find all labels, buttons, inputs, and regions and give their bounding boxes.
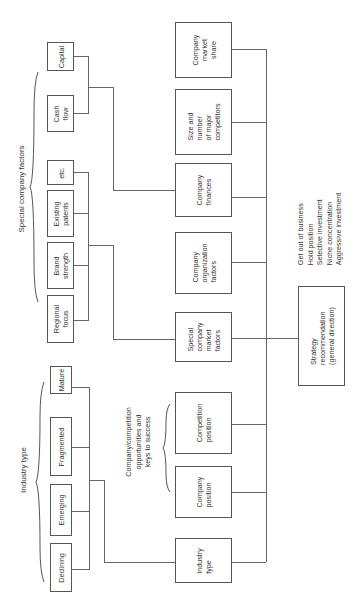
box-existing-patents: Existing patents bbox=[47, 190, 74, 237]
box-brand-strength: Brand strength bbox=[47, 242, 74, 289]
connector bbox=[74, 320, 88, 321]
connector bbox=[88, 245, 113, 246]
box-company-position: Company position bbox=[175, 466, 232, 518]
box-industry-type: Industry type bbox=[175, 538, 232, 583]
connector bbox=[113, 87, 114, 191]
company-competition-label: Company/competition opportunities and ke… bbox=[122, 392, 154, 492]
box-size-number-competitors: Size and number of major competitors bbox=[175, 89, 232, 155]
strategy-options-list: Get out of business Hold position Select… bbox=[295, 183, 345, 274]
connector bbox=[89, 387, 90, 570]
connector bbox=[89, 480, 104, 481]
special-factors-brace bbox=[32, 72, 40, 302]
connector bbox=[232, 262, 266, 263]
box-etc: etc. bbox=[47, 160, 74, 185]
box-company-organization: Company organization factors bbox=[175, 232, 232, 294]
box-mature: Mature bbox=[50, 366, 72, 394]
connector bbox=[74, 113, 88, 114]
connector bbox=[72, 511, 89, 512]
connector-to-strategy bbox=[266, 338, 298, 339]
connector bbox=[232, 122, 266, 123]
connector bbox=[113, 339, 175, 340]
connector bbox=[88, 172, 89, 321]
connector bbox=[232, 49, 266, 50]
connector bbox=[232, 338, 266, 339]
connector bbox=[88, 56, 89, 114]
connector bbox=[74, 56, 88, 57]
company-competition-brace bbox=[164, 404, 172, 492]
connector bbox=[74, 265, 88, 266]
connector bbox=[232, 492, 266, 493]
industry-type-label: Industry type bbox=[14, 430, 34, 510]
box-special-company-market: Special company market factors bbox=[175, 312, 232, 362]
box-capital: Capital bbox=[47, 42, 74, 71]
connector bbox=[74, 172, 88, 173]
connector bbox=[72, 447, 89, 448]
connector bbox=[232, 424, 266, 425]
special-company-factors-label: Special company factors bbox=[12, 130, 32, 248]
box-fragmented: Fragmented bbox=[50, 417, 72, 476]
connector bbox=[72, 569, 89, 570]
connector bbox=[74, 213, 88, 214]
box-competition-position: Competition position bbox=[175, 392, 232, 454]
box-company-finances: Company finances bbox=[175, 163, 232, 217]
box-declining: Declining bbox=[50, 543, 72, 592]
connector bbox=[88, 87, 113, 88]
box-cash-flow: Cash flow bbox=[47, 95, 74, 132]
connector bbox=[104, 562, 175, 563]
main-trunk bbox=[266, 49, 267, 562]
industry-type-brace bbox=[38, 382, 46, 582]
box-company-market-share: Company market share bbox=[175, 22, 232, 78]
connector bbox=[232, 562, 266, 563]
connector bbox=[113, 245, 114, 340]
box-emerging: Emerging bbox=[50, 484, 72, 536]
connector bbox=[72, 387, 89, 388]
box-strategy-recommendation: Strategy recommendation (general directi… bbox=[298, 286, 345, 386]
box-regional-focus: Regional focus bbox=[47, 295, 74, 343]
connector bbox=[104, 480, 105, 562]
connector bbox=[113, 190, 175, 191]
connector bbox=[232, 197, 266, 198]
